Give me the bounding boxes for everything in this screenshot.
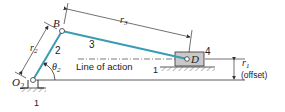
joint-d: [185, 57, 190, 62]
label-link-3: 3: [89, 39, 95, 50]
slider-ground: [160, 67, 215, 71]
r3-dimension: [64, 3, 192, 52]
label-r1: r1: [242, 57, 249, 70]
label-link-2: 2: [55, 45, 61, 56]
mechanism-figure: O2 1 B 2 3 r2 r3 θ2 Line of action 1 D 4…: [0, 0, 285, 112]
label-offset: (offset): [241, 70, 267, 80]
label-r3: r3: [120, 14, 128, 27]
label-o2: O2: [12, 76, 24, 91]
label-b: B: [53, 17, 60, 29]
pivot-o2: [31, 78, 36, 83]
slider-crank-diagram: O2 1 B 2 3 r2 r3 θ2 Line of action 1 D 4…: [0, 0, 285, 112]
label-slider-4: 4: [205, 46, 211, 57]
label-d: D: [190, 53, 199, 65]
link-3-coupler: [62, 31, 187, 59]
joint-b: [60, 29, 65, 34]
label-ground-1-crank: 1: [34, 98, 39, 108]
label-r2: r2: [30, 42, 38, 55]
label-theta2: θ2: [52, 61, 61, 74]
label-line-of-action: Line of action: [76, 61, 133, 72]
label-ground-1-slider: 1: [153, 65, 158, 75]
